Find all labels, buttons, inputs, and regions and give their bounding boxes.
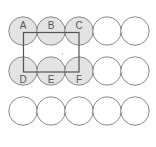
circle-r3c3 xyxy=(65,97,93,125)
label-b: B xyxy=(48,20,55,31)
circle-r2c4 xyxy=(93,57,121,85)
label-f: F xyxy=(76,74,82,85)
label-e: E xyxy=(48,74,55,85)
circle-r3c5 xyxy=(121,97,149,125)
label-a: A xyxy=(20,20,27,31)
circle-r2c5 xyxy=(121,57,149,85)
circle-grid-diagram: A B C D E F xyxy=(0,0,156,147)
circle-r3c1 xyxy=(9,97,37,125)
circle-r3c2 xyxy=(37,97,65,125)
label-d: D xyxy=(19,74,26,85)
label-c: C xyxy=(75,20,82,31)
circle-r1c5 xyxy=(121,17,149,45)
circle-r3c4 xyxy=(93,97,121,125)
circle-r1c4 xyxy=(93,17,121,45)
